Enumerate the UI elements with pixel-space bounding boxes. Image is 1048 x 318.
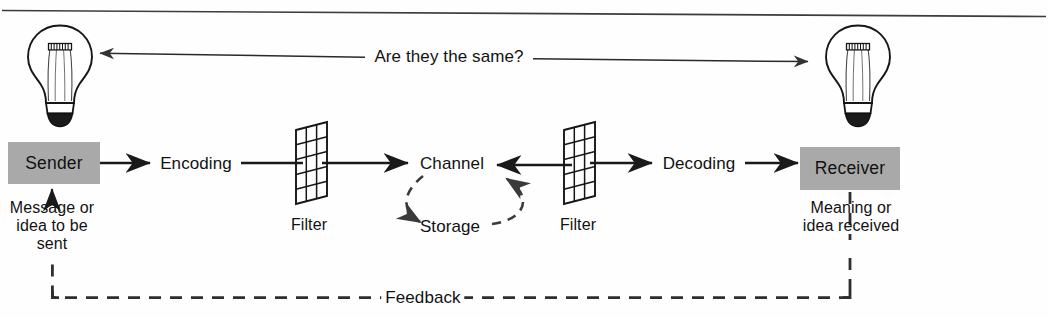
- receiver-box[interactable]: Receiver: [800, 147, 900, 190]
- filter-label-right: Filter: [560, 216, 596, 234]
- lightbulb-icon-left: [28, 26, 92, 127]
- sender-box[interactable]: Sender: [8, 142, 100, 184]
- decoding-label: Decoding: [663, 154, 736, 173]
- receiver-note-line-1: Meaning or: [803, 199, 899, 217]
- page-rule-top: [2, 11, 1046, 17]
- lightbulb-icon-right: [826, 26, 890, 127]
- channel-label: Channel: [420, 154, 484, 173]
- receiver-note: Meaning or idea received: [803, 199, 899, 235]
- storage-label: Storage: [420, 217, 480, 236]
- feedback-label: Feedback: [381, 288, 464, 307]
- sender-note-line-3: sent: [10, 235, 95, 253]
- receiver-note-line-2: idea received: [803, 217, 899, 235]
- filter-label-left: Filter: [291, 216, 327, 234]
- sender-note-line-1: Message or: [10, 199, 95, 217]
- feedback-path: [52, 192, 851, 298]
- are-they-the-same-label: Are they the same?: [374, 47, 523, 66]
- encoding-label: Encoding: [160, 154, 232, 173]
- sender-note: Message or idea to be sent: [10, 199, 95, 253]
- sender-note-line-2: idea to be: [10, 217, 95, 235]
- diagram-canvas: Are they the same? Sender Receiver Encod…: [0, 0, 1048, 318]
